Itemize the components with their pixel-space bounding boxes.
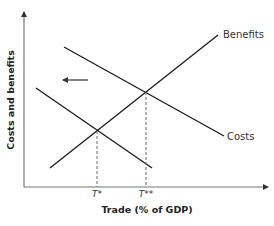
- costs-shifted-line: [36, 88, 152, 168]
- costs-label: Costs: [227, 131, 254, 142]
- cost-benefit-diagram: Benefits Costs T* T** Trade (% of GDP) C…: [0, 0, 274, 226]
- y-axis-title: Costs and benefits: [5, 50, 16, 150]
- t-double-star-tick: T**: [139, 189, 154, 199]
- t-star-tick: T*: [92, 189, 102, 199]
- benefits-line: [50, 35, 218, 168]
- costs-line: [64, 47, 224, 136]
- benefits-label: Benefits: [223, 29, 264, 40]
- x-axis-title: Trade (% of GDP): [101, 204, 192, 215]
